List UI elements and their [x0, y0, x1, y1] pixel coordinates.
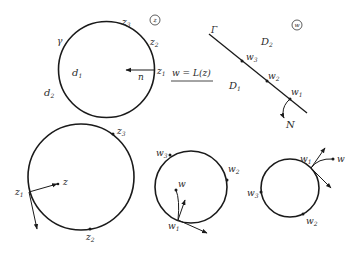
region-label-D2: D2: [260, 36, 273, 48]
svg-text:w: w: [294, 21, 300, 28]
point-z3: [112, 133, 115, 136]
z-plane-badge: z: [150, 15, 160, 25]
z-circle: [28, 124, 134, 230]
w-circle-inside: [155, 151, 227, 223]
contour-label-gamma: γ: [57, 36, 63, 46]
bottom-w-outside-panel: w1 w2 w3 w: [247, 148, 345, 227]
w-circle-outside: [261, 159, 319, 217]
point-label-w3: w3: [246, 52, 258, 63]
point-label-w1: w1: [168, 221, 180, 232]
tangent-arrow-w1: [311, 168, 331, 188]
outer-normal-arrow: [311, 148, 325, 168]
curve-w-to-w1: [176, 190, 179, 220]
region-label-d2: d2: [44, 87, 54, 99]
point-w2: [226, 179, 229, 182]
point-label-w3: w3: [156, 148, 168, 159]
point-w3: [169, 154, 172, 157]
point-label-z3: z3: [116, 126, 126, 137]
point-w3: [241, 60, 244, 63]
region-label-D1: D1: [228, 80, 241, 92]
point-label-w3: w3: [247, 188, 259, 199]
interior-point-label-w: w: [178, 179, 186, 189]
mapping-formula: w = L(z): [172, 68, 211, 78]
normal-label-n: n: [138, 72, 144, 82]
point-label-w1: w1: [300, 154, 312, 165]
line-label-gamma: Γ: [210, 25, 218, 35]
point-label-z1: z1: [156, 66, 166, 77]
point-label-z3: z3: [121, 17, 131, 28]
point-z2: [89, 228, 92, 231]
point-label-w1: w1: [291, 87, 303, 98]
bottom-z-circle-panel: z3 z2 z1 z: [14, 124, 134, 243]
normal-arrow-N: [283, 99, 290, 118]
boundary-line-gamma: [209, 34, 307, 113]
point-label-z2: z2: [149, 37, 159, 48]
interior-point-label-z: z: [62, 177, 68, 187]
svg-text:z: z: [152, 16, 157, 23]
interior-point-z: [57, 183, 60, 186]
bottom-w-inside-panel: w3 w2 w1 w: [155, 148, 240, 233]
point-label-z1: z1: [14, 187, 24, 198]
z-plane-panel: z3 z2 z1 n γ d1 d2 z: [44, 15, 166, 118]
point-w3: [260, 191, 263, 194]
point-label-w2: w2: [268, 71, 280, 82]
w-plane-panel: Γ w3 w2 w1 D2 D1 N w: [209, 20, 307, 130]
vector-to-interior-z: [29, 184, 57, 192]
point-label-w2: w2: [228, 164, 240, 175]
conformal-mapping-diagram: z3 z2 z1 n γ d1 d2 z w = L(z) Γ w3 w2 w1…: [0, 0, 359, 253]
w-plane-badge: w: [292, 20, 302, 30]
exterior-point-label-w: w: [337, 154, 345, 164]
normal-label-N: N: [285, 119, 296, 130]
tangent-arrow-w1: [178, 220, 207, 233]
mapping-label: w = L(z): [171, 68, 213, 81]
region-label-d1: d1: [72, 67, 82, 79]
point-w2: [302, 213, 305, 216]
point-label-z2: z2: [85, 232, 95, 243]
point-label-w2: w2: [306, 216, 318, 227]
